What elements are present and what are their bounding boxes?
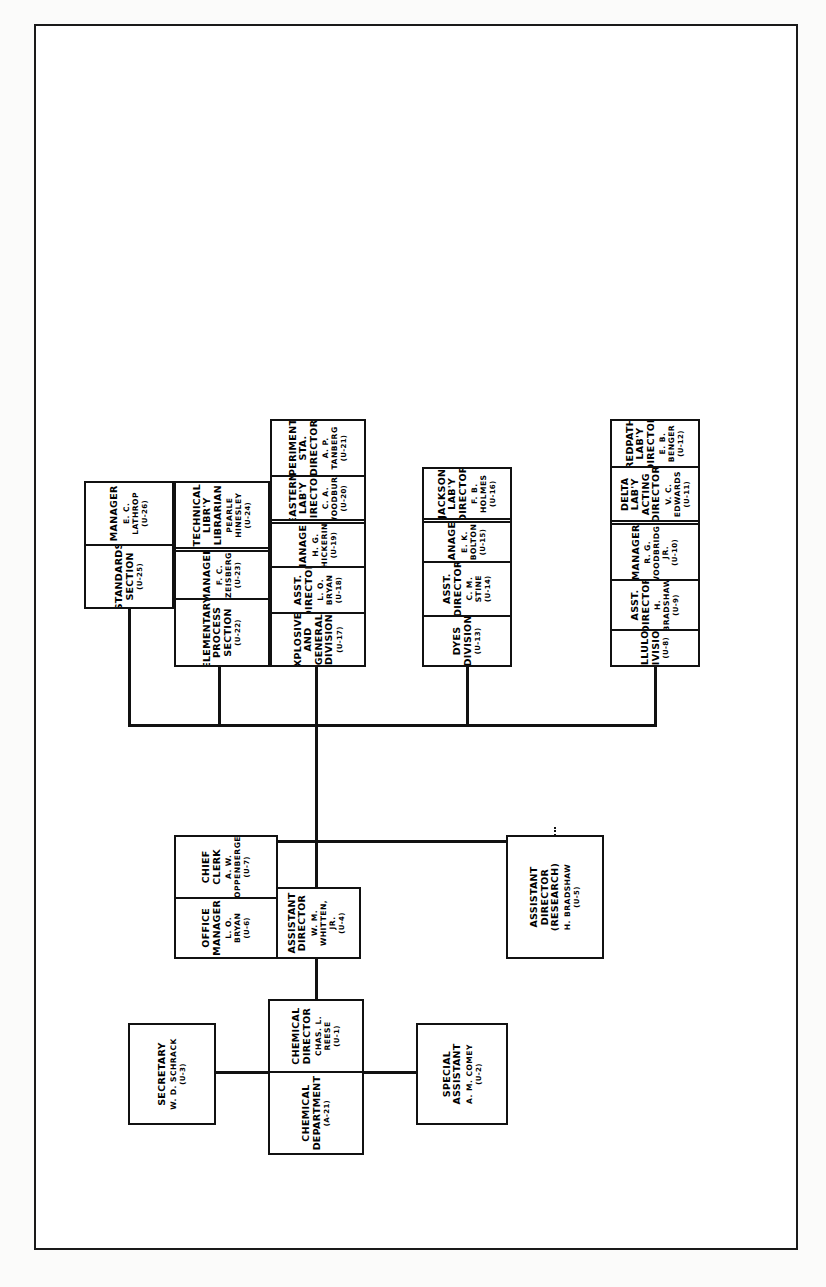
- standards-manager-code: (U-26): [141, 500, 149, 527]
- assistant-director-research-title: ASSISTANT DIRECTOR (RESEARCH): [529, 840, 561, 954]
- assistant-director-name: W. M. WHITTEN, JR.: [310, 892, 337, 954]
- dyes-division-title: DYES DIVISION: [452, 617, 473, 665]
- chief-clerk-cell: CHIEF CLERK A. W. KOPPENBERGER (U-7): [176, 837, 276, 899]
- explosives-asst-dir-code: (U-18): [335, 577, 343, 604]
- connector-spine-cellulose: [654, 667, 657, 727]
- elementary-manager-cell: MANAGER F. C. ZEISBERG (U-23): [176, 552, 268, 600]
- node-standards-section[interactable]: STANDARDS SECTION (U-25) MANAGER E. C. L…: [84, 481, 174, 609]
- cellulose-asst-dir-title: ASST. DIRECTOR: [630, 581, 651, 630]
- office-manager-title: OFFICE MANAGER: [201, 900, 222, 956]
- explosives-division-title: EXPLOSIVES AND GENERAL DIVISION: [293, 614, 335, 665]
- redpath-lab-title: REDPATH LAB'Y DIRECTOR: [625, 421, 657, 468]
- node-elementary-process-section[interactable]: ELEMENTARY PROCESS SECTION (U-22) MANAGE…: [174, 481, 270, 667]
- redpath-lab-code: (U-12): [677, 430, 685, 457]
- experimental-sta-title: EXPERIMENTAL STA. DIRECTOR: [288, 421, 320, 477]
- chemical-department-code: (A-21): [323, 1100, 331, 1126]
- eastern-lab-title: EASTERN LAB'Y DIRECTOR: [288, 477, 320, 525]
- cellulose-manager-name: R. G. WOODBRIDGE JR.: [643, 525, 670, 581]
- eastern-lab-cell: EASTERN LAB'Y DIRECTOR C. A. WOODBURY (U…: [272, 477, 364, 525]
- office-manager-name: L. O. BRYAN: [224, 902, 242, 954]
- elementary-process-cell: ELEMENTARY PROCESS SECTION (U-22): [176, 600, 268, 665]
- elementary-manager-name: F. C. ZEISBERG: [215, 552, 233, 598]
- chief-clerk-code: (U-7): [243, 856, 251, 877]
- standards-section-cell: STANDARDS SECTION (U-25): [86, 546, 172, 607]
- experimental-sta-code: (U-21): [340, 435, 348, 462]
- explosives-asst-dir-title: ASST. DIRECTOR: [293, 568, 314, 614]
- standards-section-title: STANDARDS SECTION: [114, 546, 135, 607]
- assistant-director-title: ASSISTANT DIRECTOR: [287, 892, 308, 954]
- connector-director-assistant-director: [315, 959, 318, 999]
- cellulose-asst-dir-code: (U-9): [672, 594, 680, 615]
- dyes-asst-dir-name: C. M. STINE: [465, 566, 483, 612]
- node-office-manager[interactable]: OFFICE MANAGER L. O. BRYAN (U-6) CHIEF C…: [174, 835, 278, 959]
- node-dyes-division[interactable]: DYES DIVISION (U-13) ASST. DIRECTOR C. M…: [422, 467, 512, 667]
- delta-lab-code: (U-11): [683, 481, 691, 508]
- org-chart-stage: SECRETARY W. D. SCHRACK (U-3) CHEMICAL D…: [66, 57, 766, 1217]
- special-assistant-code: (U-2): [475, 1063, 483, 1084]
- cellulose-division-cell: CELLULOSE DIVISION (U-8): [612, 631, 698, 665]
- chemical-department-title: CHEMICAL DEPARTMENT: [301, 1076, 322, 1151]
- secretary-cell: SECRETARY W. D. SCHRACK (U-3): [130, 1025, 214, 1123]
- explosives-division-cell: EXPLOSIVES AND GENERAL DIVISION (U-17): [272, 614, 364, 665]
- special-assistant-title: SPECIAL ASSISTANT: [442, 1028, 463, 1120]
- elementary-manager-code: (U-23): [234, 562, 242, 589]
- secretary-title: SECRETARY: [157, 1042, 168, 1106]
- node-secretary[interactable]: SECRETARY W. D. SCHRACK (U-3): [128, 1023, 216, 1125]
- connector-spine-standards: [128, 609, 131, 727]
- connector-spine-explosives: [315, 667, 318, 727]
- technical-library-cell: TECHNICAL LIBR'Y LIBRARIAN PEARLE HINESL…: [176, 483, 268, 552]
- explosives-manager-title: MANAGER: [298, 524, 309, 567]
- technical-library-name: PEARLE HINESLEY: [225, 486, 243, 544]
- special-assistant-cell: SPECIAL ASSISTANT A. M. COMEY (U-2): [418, 1025, 506, 1123]
- eastern-lab-name: C. A. WOODBURY: [321, 477, 339, 525]
- node-special-assistant[interactable]: SPECIAL ASSISTANT A. M. COMEY (U-2): [416, 1023, 508, 1125]
- delta-lab-title: DELTA LAB'Y ACTING DIRECTOR: [620, 468, 662, 522]
- dyes-manager-code: (U-15): [479, 529, 487, 556]
- standards-manager-title: MANAGER: [109, 485, 120, 541]
- office-manager-cell: OFFICE MANAGER L. O. BRYAN (U-6): [176, 899, 276, 957]
- experimental-sta-cell: EXPERIMENTAL STA. DIRECTOR A. P. TANBERG…: [272, 421, 364, 477]
- connector-director-special-assistant: [364, 1072, 416, 1075]
- assistant-director-cell: ASSISTANT DIRECTOR W. M. WHITTEN, JR. (U…: [273, 889, 359, 957]
- explosives-division-code: (U-17): [336, 626, 344, 653]
- page-border: SECRETARY W. D. SCHRACK (U-3) CHEMICAL D…: [34, 24, 798, 1250]
- jackson-lab-title: JACKSON LAB'Y DIRECTOR: [437, 469, 469, 522]
- connector-spine-feed: [315, 725, 318, 843]
- eastern-lab-code: (U-20): [340, 485, 348, 512]
- explosives-manager-name: H. G. CHICKERING: [311, 524, 329, 567]
- cellulose-manager-code: (U-10): [671, 539, 679, 566]
- dyes-division-cell: DYES DIVISION (U-13): [424, 617, 510, 665]
- assistant-director-research-cell: ASSISTANT DIRECTOR (RESEARCH) H. BRADSHA…: [508, 837, 602, 957]
- chemical-director-cell: CHEMICAL DIRECTOR CHAS. L. REESE (U-1): [270, 1001, 362, 1073]
- jackson-lab-cell: JACKSON LAB'Y DIRECTOR F. B. HOLMES (U-1…: [424, 469, 510, 524]
- node-chemical-department[interactable]: CHEMICAL DEPARTMENT (A-21) CHEMICAL DIRE…: [268, 999, 364, 1155]
- chief-clerk-title: CHIEF CLERK: [201, 840, 222, 894]
- chief-clerk-name: A. W. KOPPENBERGER: [224, 837, 242, 899]
- node-cellulose-division[interactable]: CELLULOSE DIVISION (U-8) ASST. DIRECTOR …: [610, 419, 700, 667]
- chemical-director-name: CHAS. L. REESE: [314, 1004, 332, 1068]
- assistant-director-code: (U-4): [338, 912, 346, 933]
- explosives-asst-dir-name: L. O. BRYAN: [316, 571, 334, 609]
- cellulose-asst-dir-cell: ASST. DIRECTOR H. BRADSHAW (U-9): [612, 581, 698, 630]
- dyes-division-code: (U-13): [474, 628, 482, 655]
- elementary-process-title: ELEMENTARY PROCESS SECTION: [202, 600, 234, 665]
- office-manager-code: (U-6): [243, 917, 251, 938]
- dyes-asst-dir-title: ASST. DIRECTOR: [442, 563, 463, 617]
- node-assistant-director-research[interactable]: ASSISTANT DIRECTOR (RESEARCH) H. BRADSHA…: [506, 835, 604, 959]
- cellulose-manager-cell: MANAGER R. G. WOODBRIDGE JR. (U-10): [612, 525, 698, 581]
- jackson-lab-name: F. B. HOLMES: [470, 472, 488, 516]
- secretary-code: (U-3): [179, 1063, 187, 1084]
- dyes-manager-cell: MANAGER E. K. BOLTON (U-15): [424, 524, 510, 563]
- dyes-manager-name: E. K. BOLTON: [460, 524, 478, 561]
- dyes-manager-title: MANAGER: [447, 524, 458, 563]
- elementary-manager-title: MANAGER: [202, 552, 213, 600]
- cellulose-division-title: CELLULOSE DIVISION: [640, 631, 661, 665]
- node-assistant-director[interactable]: ASSISTANT DIRECTOR W. M. WHITTEN, JR. (U…: [271, 887, 361, 959]
- experimental-sta-name: A. P. TANBERG: [321, 424, 339, 472]
- assistant-director-research-name: H. BRADSHAW: [563, 864, 572, 930]
- secretary-name: W. D. SCHRACK: [169, 1038, 178, 1110]
- connector-spine: [128, 725, 656, 728]
- technical-library-code: (U-24): [244, 502, 252, 529]
- assistant-director-research-code: (U-5): [573, 886, 581, 907]
- node-explosives-division[interactable]: EXPLOSIVES AND GENERAL DIVISION (U-17) A…: [270, 419, 366, 667]
